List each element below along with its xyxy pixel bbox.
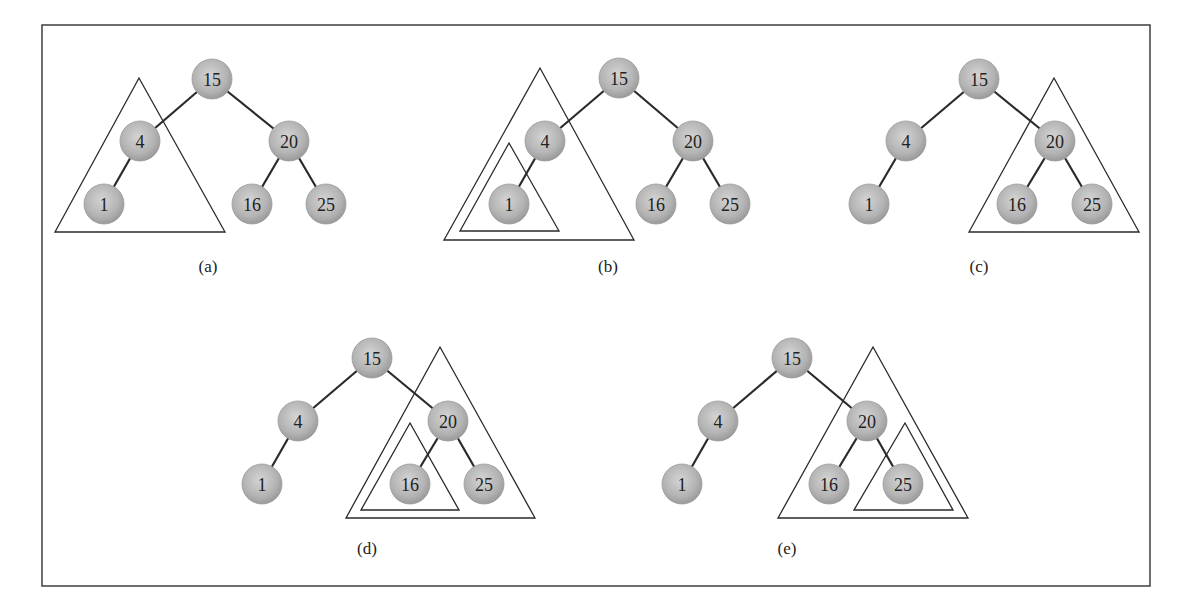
tree-node: 15: [352, 338, 392, 378]
tree-node: 4: [120, 121, 160, 161]
node-label: 20: [280, 132, 298, 152]
tree-node: 4: [698, 401, 738, 441]
tree-node: 1: [84, 184, 124, 224]
node-label: 1: [865, 195, 874, 215]
node-label: 1: [678, 475, 687, 495]
tree-node: 16: [232, 184, 272, 224]
tree-node: 20: [269, 121, 309, 161]
tree-node: 15: [959, 59, 999, 99]
node-label: 16: [1008, 195, 1026, 215]
node-label: 15: [363, 349, 381, 369]
node-label: 4: [902, 132, 911, 152]
node-label: 16: [647, 195, 665, 215]
tree-node: 25: [464, 464, 504, 504]
tree-node: 25: [306, 184, 346, 224]
tree-node: 16: [809, 464, 849, 504]
tree-node: 15: [599, 58, 639, 98]
tree-node: 1: [489, 184, 529, 224]
panel-b: 1542011625(b): [444, 58, 750, 276]
panels-container: 1542011625(a)1542011625(b)1542011625(c)1…: [55, 58, 1139, 558]
node-label: 25: [317, 195, 335, 215]
node-label: 1: [100, 195, 109, 215]
tree-node: 20: [428, 401, 468, 441]
node-label: 16: [243, 195, 261, 215]
node-label: 15: [783, 349, 801, 369]
tree-node: 1: [242, 464, 282, 504]
node-label: 20: [684, 132, 702, 152]
tree-node: 25: [710, 184, 750, 224]
bst-traversal-diagram: 1542011625(a)1542011625(b)1542011625(c)1…: [0, 0, 1195, 610]
figure-frame: [42, 25, 1150, 586]
panel-caption: (b): [598, 257, 618, 276]
node-label: 20: [439, 412, 457, 432]
tree-node: 4: [525, 121, 565, 161]
panel-e: 1542011625(e): [662, 338, 968, 558]
panel-caption: (d): [357, 539, 377, 558]
tree-node: 20: [673, 121, 713, 161]
tree-node: 1: [662, 464, 702, 504]
node-label: 15: [203, 70, 221, 90]
tree-node: 4: [278, 401, 318, 441]
node-label: 25: [894, 475, 912, 495]
tree-node: 4: [886, 121, 926, 161]
node-label: 15: [610, 69, 628, 89]
node-label: 25: [721, 195, 739, 215]
panel-caption: (e): [778, 539, 797, 558]
tree-node: 20: [1035, 121, 1075, 161]
node-label: 20: [1046, 132, 1064, 152]
node-label: 25: [475, 475, 493, 495]
tree-node: 1: [849, 184, 889, 224]
node-label: 16: [820, 475, 838, 495]
tree-node: 25: [1072, 184, 1112, 224]
node-label: 1: [258, 475, 267, 495]
panel-a: 1542011625(a): [55, 59, 346, 276]
tree-node: 20: [847, 401, 887, 441]
tree-node: 15: [772, 338, 812, 378]
tree-node: 16: [390, 464, 430, 504]
panel-d: 1542011625(d): [242, 338, 535, 558]
node-label: 20: [858, 412, 876, 432]
panel-c: 1542011625(c): [849, 59, 1139, 276]
node-label: 25: [1083, 195, 1101, 215]
node-label: 1: [505, 195, 514, 215]
panel-caption: (c): [970, 257, 989, 276]
node-label: 4: [136, 132, 145, 152]
node-label: 4: [541, 132, 550, 152]
tree-node: 25: [883, 464, 923, 504]
node-label: 4: [294, 412, 303, 432]
tree-node: 16: [636, 184, 676, 224]
tree-node: 15: [192, 59, 232, 99]
node-label: 4: [714, 412, 723, 432]
node-label: 15: [970, 70, 988, 90]
tree-node: 16: [997, 184, 1037, 224]
node-label: 16: [401, 475, 419, 495]
panel-caption: (a): [199, 257, 218, 276]
